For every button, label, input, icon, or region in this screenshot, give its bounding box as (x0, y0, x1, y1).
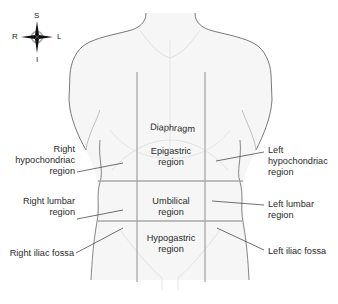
compass-inferior-label: I (36, 56, 38, 64)
left-iliac-fossa-label: Left iliac fossa (268, 246, 326, 257)
compass-superior-label: S (34, 12, 39, 20)
hypogastric-region-label: Hypogastric region (137, 233, 205, 255)
abdominal-regions-diagram: S I R L Diaphragm Epigastric region Umbi… (0, 0, 338, 304)
right-iliac-fossa-label: Right iliac fossa (0, 248, 74, 259)
left-lumbar-region-label: Left lumbar region (268, 199, 314, 221)
left-hypochondriac-region-label: Left hypochondriac region (268, 145, 328, 178)
right-lumbar-region-label: Right lumbar region (0, 196, 75, 218)
compass-right-label: R (12, 33, 18, 41)
compass-rose-icon (21, 21, 53, 53)
right-hypochondriac-region-label: Right hypochondriac region (0, 144, 75, 177)
diaphragm-label: Diaphragm (150, 122, 195, 135)
umbilical-region-label: Umbilical region (137, 196, 205, 218)
epigastric-region-label: Epigastric region (137, 146, 205, 168)
compass-left-label: L (57, 33, 61, 41)
